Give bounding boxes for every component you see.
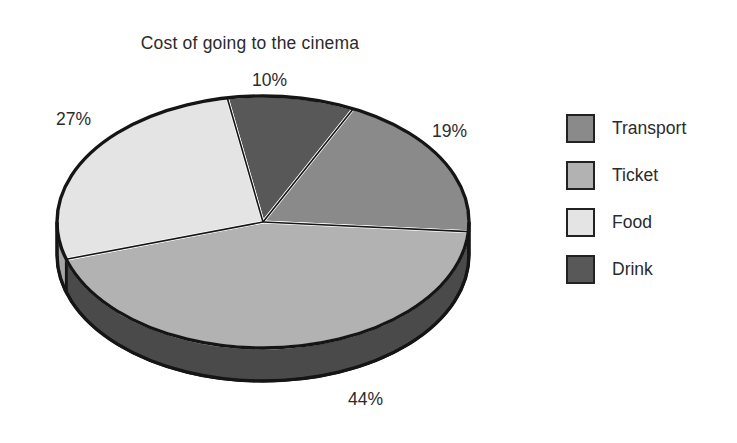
legend-label-food: Food [612, 212, 652, 233]
slice-label-ticket: 44% [348, 389, 383, 410]
legend-item-transport[interactable]: Transport [566, 105, 731, 152]
slice-label-drink: 10% [252, 70, 287, 91]
legend-item-ticket[interactable]: Ticket [566, 152, 731, 199]
legend-label-drink: Drink [612, 259, 653, 280]
legend-label-transport: Transport [612, 118, 686, 139]
pie-plot-area: 10% 19% 27% 44% [0, 0, 540, 443]
slice-label-food: 27% [56, 109, 91, 130]
pie-chart-figure: Cost of going to the cinema 10% 19% 27% … [0, 0, 737, 443]
pie-svg [0, 0, 540, 443]
legend-swatch-icon-drink [566, 255, 595, 284]
legend-swatch-icon-transport [566, 114, 595, 143]
legend-label-ticket: Ticket [612, 165, 658, 186]
legend-item-drink[interactable]: Drink [566, 246, 731, 293]
legend-swatch-icon-food [566, 208, 595, 237]
chart-legend: Transport Ticket Food Drink [566, 105, 731, 293]
pie-3d-group [57, 96, 469, 381]
legend-item-food[interactable]: Food [566, 199, 731, 246]
slice-label-transport: 19% [432, 121, 467, 142]
legend-swatch-icon-ticket [566, 161, 595, 190]
